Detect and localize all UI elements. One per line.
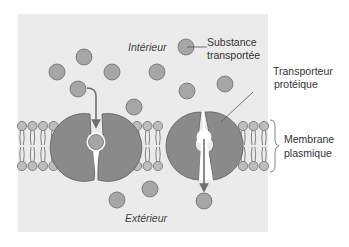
label-transporter-1: Transporteur [273,65,333,77]
molecule [109,192,125,208]
bound-molecule [89,135,104,150]
molecule [217,76,233,92]
label-substance-2: transportée [207,49,260,61]
molecule [179,83,195,99]
molecule [196,193,212,209]
molecule [149,64,165,80]
molecule [70,81,86,97]
facilitated-diffusion-diagram: Intérieur Extérieur Substance transporté… [0,0,349,247]
label-exterior: Extérieur [125,212,168,224]
label-substance-1: Substance [207,36,257,48]
molecule [49,64,65,80]
label-transporter-2: protéique [274,78,318,90]
molecule [104,64,120,80]
molecule [126,99,142,115]
label-membrane-1: Membrane [284,133,334,145]
label-membrane-2: plasmique [284,147,332,159]
membrane-brace [270,120,279,172]
molecule [142,181,158,197]
molecule [76,49,92,65]
label-interior: Intérieur [128,41,167,53]
